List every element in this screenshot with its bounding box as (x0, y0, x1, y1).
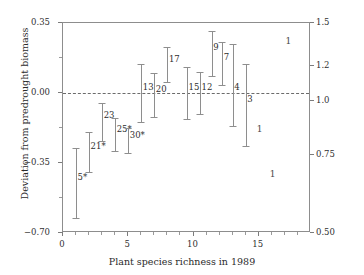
y-tick-right (310, 22, 314, 23)
x-tick-minor (101, 232, 102, 235)
data-point-label: 13 (143, 83, 154, 92)
y-tick-left (58, 92, 62, 93)
error-bar-cap (125, 128, 132, 129)
x-tick-minor (206, 232, 207, 235)
y-tick-left-minor (59, 197, 62, 198)
y-tick-label-right: 1.5 (316, 18, 330, 27)
error-bar-cap (242, 146, 249, 147)
error-bar (89, 132, 90, 172)
x-tick-minor (75, 232, 76, 235)
error-bar (200, 72, 201, 114)
y-tick-label-left: −0.70 (24, 228, 50, 237)
x-tick-minor (271, 232, 272, 235)
data-point-label: 7 (224, 53, 229, 62)
error-bar (102, 103, 103, 141)
error-bar (212, 31, 213, 76)
error-bar (115, 118, 116, 151)
error-bar-cap (229, 126, 236, 127)
error-bar (141, 64, 142, 122)
error-bar (154, 73, 155, 117)
error-bar-cap (112, 151, 119, 152)
x-tick-minor (219, 232, 220, 235)
x-tick-minor (114, 232, 115, 235)
single-observation-label: 1 (257, 125, 263, 134)
error-bar-cap (184, 67, 191, 68)
data-point-label: 17 (169, 55, 180, 64)
x-tick-minor (297, 232, 298, 235)
x-tick (62, 232, 63, 236)
data-point-label: 9 (213, 43, 218, 52)
y-axis-left-label: Deviation from predrought biomass (19, 4, 30, 224)
y-tick-left-minor (59, 57, 62, 58)
data-point-label: 4 (234, 83, 239, 92)
y-tick-label-right: 1.0 (316, 96, 330, 105)
error-bar-cap (73, 218, 80, 219)
error-bar-cap (164, 47, 171, 48)
error-bar (167, 47, 168, 82)
x-tick-label: 10 (187, 240, 198, 249)
x-tick-minor (245, 232, 246, 235)
reference-line-zero (63, 93, 309, 94)
x-tick-minor (140, 232, 141, 235)
error-bar-cap (197, 72, 204, 73)
single-observation-label: 1 (286, 37, 292, 46)
error-bar-cap (208, 31, 215, 32)
error-bar-cap (138, 122, 145, 123)
error-bar-cap (151, 73, 158, 74)
error-bar-cap (86, 172, 93, 173)
single-observation-label: 1 (270, 170, 276, 179)
x-tick-label: 5 (125, 240, 130, 249)
data-point-label: 15 (189, 83, 200, 92)
error-bar-cap (242, 64, 249, 65)
y-tick-right (310, 65, 314, 66)
x-tick-minor (284, 232, 285, 235)
error-bar-cap (197, 114, 204, 115)
y-tick-label-right: 0.75 (316, 150, 335, 159)
data-point-label: 3 (247, 95, 252, 104)
y-tick-right (310, 232, 314, 233)
error-bar-cap (229, 44, 236, 45)
error-bar-cap (125, 153, 132, 154)
error-bar (76, 148, 77, 218)
data-point-label: 30* (130, 131, 145, 140)
error-bar-cap (99, 141, 106, 142)
y-tick-left (58, 162, 62, 163)
error-bar-cap (164, 82, 171, 83)
error-bar (187, 67, 188, 119)
error-bar-cap (219, 42, 226, 43)
error-bar-cap (184, 119, 191, 120)
y-tick-label-right: 1.2 (316, 61, 330, 70)
error-bar-cap (86, 132, 93, 133)
y-tick-left (58, 22, 62, 23)
y-tick-right (310, 154, 314, 155)
y-tick-label-left: −0.35 (24, 158, 50, 167)
x-tick-minor (153, 232, 154, 235)
x-tick-minor (232, 232, 233, 235)
y-tick-right (310, 100, 314, 101)
chart-figure: Deviation from predrought biomass Biomas… (0, 0, 364, 275)
error-bar (222, 42, 223, 85)
x-tick (127, 232, 128, 236)
y-tick-label-left: 0.35 (31, 18, 50, 27)
x-tick-minor (179, 232, 180, 235)
data-point-label: 12 (202, 83, 213, 92)
error-bar-cap (112, 118, 119, 119)
x-tick (258, 232, 259, 236)
x-axis-label: Plant species richness in 1989 (0, 256, 364, 267)
error-bar-cap (151, 117, 158, 118)
data-point-label: 20 (156, 85, 167, 94)
error-bar-cap (73, 148, 80, 149)
data-point-label: 5* (78, 173, 88, 182)
error-bar (246, 64, 247, 146)
x-tick-label: 15 (252, 240, 263, 249)
error-bar-cap (99, 103, 106, 104)
y-tick-label-left: 0.00 (31, 88, 50, 97)
data-point-label: 21* (91, 142, 106, 151)
error-bar-cap (219, 85, 226, 86)
y-tick-label-right: 0.50 (316, 228, 335, 237)
x-tick-minor (88, 232, 89, 235)
x-tick (193, 232, 194, 236)
y-tick-left-minor (59, 127, 62, 128)
x-tick-minor (166, 232, 167, 235)
error-bar-cap (208, 76, 215, 77)
